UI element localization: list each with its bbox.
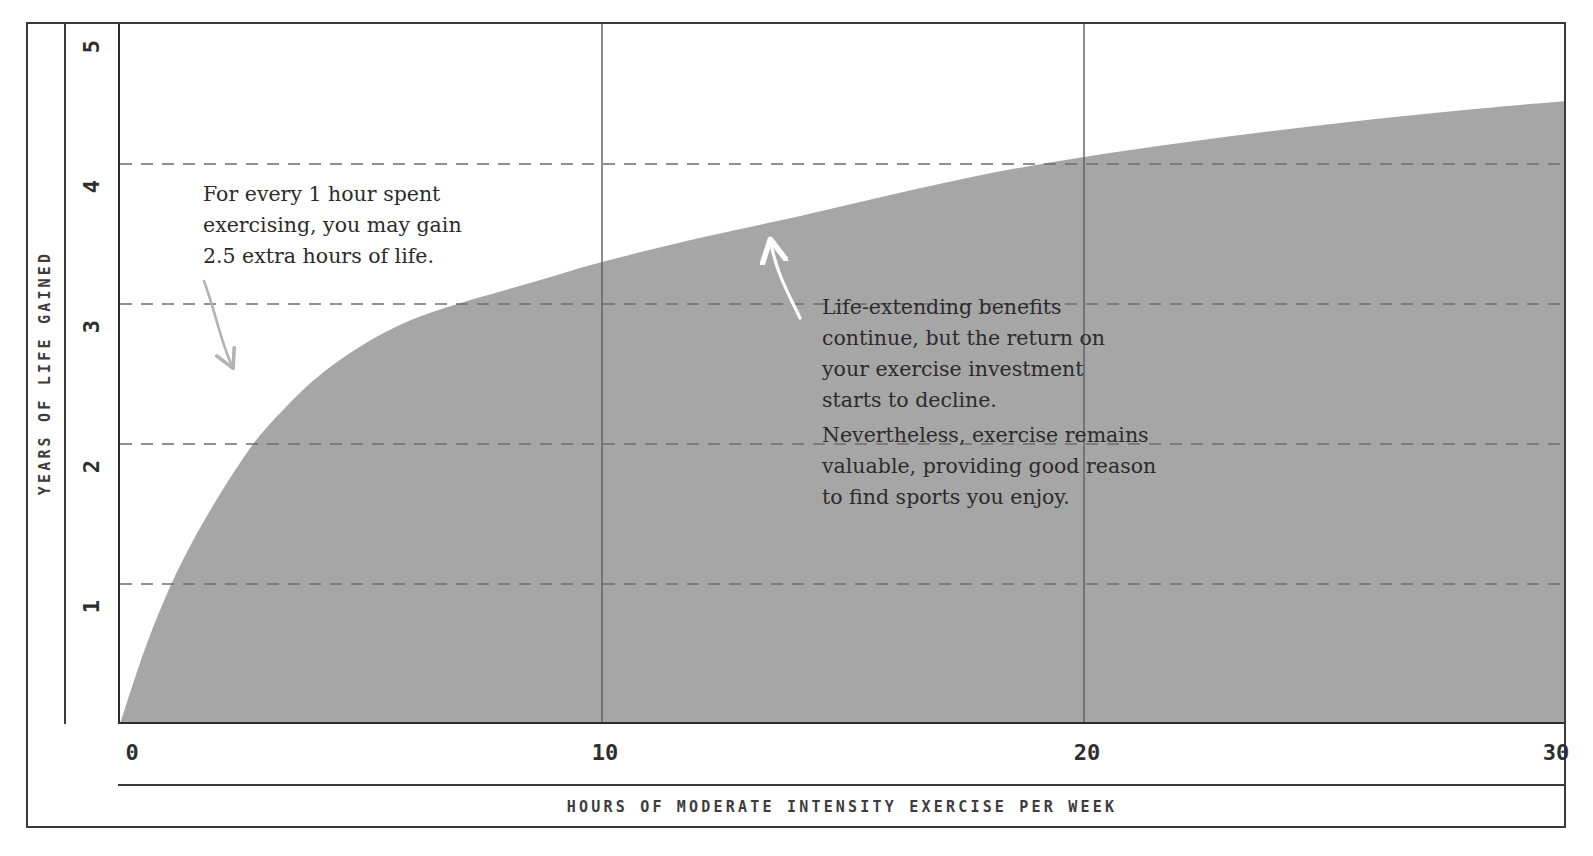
y-tick-3: 3	[66, 313, 118, 339]
annotation-text-1: For every 1 hour spent exercising, you m…	[203, 179, 462, 272]
x-tick-20: 20	[1074, 740, 1101, 765]
x-tick-0: 0	[125, 740, 138, 765]
chart-figure: YEARS OF LIFE GAINED 1 2 3 4 5 0 10 20 3…	[0, 0, 1593, 856]
x-tick-30: 30	[1543, 740, 1570, 765]
x-axis-title: HOURS OF MODERATE INTENSITY EXERCISE PER…	[567, 798, 1117, 816]
annotation-text-3: Nevertheless, exercise remains valuable,…	[822, 420, 1156, 513]
y-tick-1: 1	[66, 593, 118, 619]
y-tick-5: 5	[66, 33, 118, 59]
y-tick-2: 2	[66, 453, 118, 479]
annotation-text-2: Life-extending benefits continue, but th…	[822, 292, 1105, 416]
y-tick-4: 4	[66, 173, 118, 199]
x-axis-tick-strip: 0 10 20 30	[118, 724, 1566, 786]
x-axis-title-strip: HOURS OF MODERATE INTENSITY EXERCISE PER…	[118, 786, 1566, 828]
y-axis-title-strip: YEARS OF LIFE GAINED	[26, 22, 66, 724]
x-tick-10: 10	[592, 740, 619, 765]
y-axis-title: YEARS OF LIFE GAINED	[36, 251, 54, 496]
y-axis-tick-strip: 1 2 3 4 5	[66, 22, 118, 724]
